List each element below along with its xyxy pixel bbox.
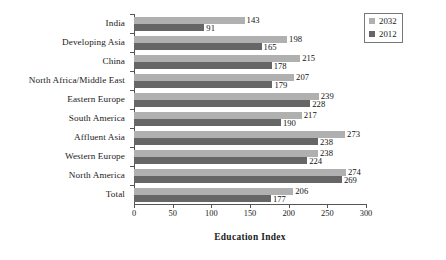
x-axis-tick-label: 150 [244,209,257,218]
chart-legend: 20322012 [364,13,403,43]
legend-swatch-icon [369,18,375,24]
bar-row: 273238 [134,128,366,147]
bar-2012: 91 [134,24,204,31]
x-axis-tick-label: 250 [321,209,334,218]
x-axis-tick-label: 300 [360,209,373,218]
y-axis-tick [130,33,134,34]
x-axis-tick [289,204,290,208]
y-axis-tick [130,109,134,110]
y-axis-tick [130,128,134,129]
bar-2012: 190 [134,119,281,126]
x-axis-tick-label: 50 [168,209,176,218]
y-axis-tick [130,90,134,91]
bar-2032: 143 [134,17,245,24]
y-axis-tick [130,71,134,72]
y-axis-tick [130,185,134,186]
bar-2012: 179 [134,81,272,88]
bar-value-label: 165 [264,42,277,52]
bar-value-label: 198 [289,34,302,44]
bar-2012: 165 [134,43,262,50]
x-axis-tick-label: 100 [205,209,218,218]
bar-value-label: 215 [302,53,315,63]
bar-value-label: 269 [344,175,357,185]
bar-2012: 177 [134,195,271,202]
x-axis-tick [173,204,174,208]
category-label: China [0,52,130,71]
y-axis-tick [130,147,134,148]
category-label: India [0,14,130,33]
bar-2012: 238 [134,138,318,145]
x-axis-tick [366,204,367,208]
bar-2032: 206 [134,188,293,195]
bar-value-label: 190 [283,118,296,128]
bar-2032: 207 [134,74,294,81]
category-axis-labels: IndiaDeveloping AsiaChinaNorth Africa/Mi… [0,14,130,204]
bar-2032: 217 [134,112,302,119]
bar-row: 239228 [134,90,366,109]
bar-value-label: 178 [274,61,287,71]
bar-value-label: 228 [312,99,325,109]
category-label: North Africa/Middle East [0,71,130,90]
bar-value-label: 177 [273,194,286,204]
x-axis-tick [134,204,135,208]
education-index-bar-chart: IndiaDeveloping AsiaChinaNorth Africa/Mi… [0,0,446,260]
bar-row: 215178 [134,52,366,71]
bar-2012: 178 [134,62,272,69]
x-axis-tick [211,204,212,208]
x-axis-tick-label: 200 [282,209,295,218]
y-axis-tick [130,14,134,15]
bar-row: 238224 [134,147,366,166]
bar-row: 198165 [134,33,366,52]
bar-row: 217190 [134,109,366,128]
category-label: North America [0,166,130,185]
bar-value-label: 273 [347,129,360,139]
bar-value-label: 206 [295,186,308,196]
legend-label: 2032 [379,17,397,26]
bar-value-label: 217 [304,110,317,120]
category-label: Affluent Asia [0,128,130,147]
category-label: Total [0,185,130,204]
bar-2032: 239 [134,93,319,100]
bar-2032: 273 [134,131,345,138]
bar-2032: 274 [134,169,346,176]
bar-value-label: 143 [247,15,260,25]
legend-swatch-icon [369,31,375,37]
legend-label: 2012 [379,30,397,39]
x-axis-tick [250,204,251,208]
bar-row: 207179 [134,71,366,90]
category-label: Eastern Europe [0,90,130,109]
bar-value-label: 179 [274,80,287,90]
bar-2012: 269 [134,176,342,183]
bar-value-label: 91 [206,23,215,33]
bar-row: 274269 [134,166,366,185]
bar-row: 14391 [134,14,366,33]
x-axis-tick-label: 0 [132,209,136,218]
category-label: Developing Asia [0,33,130,52]
bar-row: 206177 [134,185,366,204]
bar-2032: 238 [134,150,318,157]
plot-area: 1439119816521517820717923922821719027323… [134,14,366,204]
bar-value-label: 207 [296,72,309,82]
x-axis-title: Education Index [134,232,366,242]
category-label: South America [0,109,130,128]
category-label: Western Europe [0,147,130,166]
bar-value-label: 238 [320,137,333,147]
legend-item[interactable]: 2012 [369,30,397,39]
x-axis-tick [327,204,328,208]
y-axis-tick [130,166,134,167]
bar-rows: 1439119816521517820717923922821719027323… [134,14,366,204]
bar-2012: 228 [134,100,310,107]
bar-2012: 224 [134,157,307,164]
bar-value-label: 224 [309,156,322,166]
legend-item[interactable]: 2032 [369,17,397,26]
y-axis-tick [130,52,134,53]
